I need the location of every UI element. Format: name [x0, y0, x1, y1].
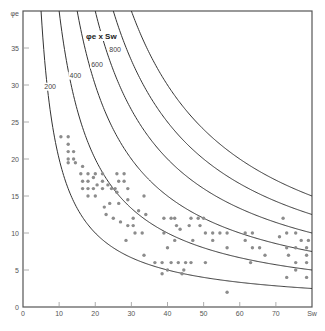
y-tick-label: 0	[15, 304, 19, 311]
curve-label-800: 800	[109, 46, 121, 53]
data-point	[124, 239, 127, 242]
data-point	[119, 220, 122, 223]
data-point	[281, 217, 284, 220]
data-point	[117, 202, 120, 205]
data-point	[122, 172, 125, 175]
y-tick-label: 20	[11, 156, 19, 163]
data-point	[285, 276, 288, 279]
data-point	[294, 231, 297, 234]
x-tick-label: 50	[200, 310, 208, 317]
data-point	[101, 187, 104, 190]
data-point	[126, 224, 129, 227]
data-point	[173, 217, 176, 220]
data-point	[117, 180, 120, 183]
data-point	[94, 172, 97, 175]
data-point	[204, 231, 207, 234]
curve-label-600: 600	[91, 61, 103, 68]
data-point	[189, 261, 192, 264]
data-point	[177, 261, 180, 264]
chart-labels: φeSwφe x Sw	[11, 10, 318, 317]
data-point	[249, 261, 252, 264]
y-tick-label: 10	[11, 230, 19, 237]
data-point	[294, 268, 297, 271]
data-point	[160, 261, 163, 264]
data-point	[101, 172, 104, 175]
data-point	[294, 261, 297, 264]
data-point	[244, 231, 247, 234]
y-tick-label: 25	[11, 119, 19, 126]
data-point	[133, 231, 136, 234]
data-point	[141, 231, 144, 234]
data-point	[204, 261, 207, 264]
data-points	[59, 135, 310, 294]
data-point	[211, 231, 214, 234]
data-point	[86, 194, 89, 197]
x-tick-label: 30	[127, 310, 135, 317]
data-point	[72, 150, 75, 153]
data-point	[211, 239, 214, 242]
data-point	[142, 194, 145, 197]
data-point	[169, 217, 172, 220]
data-point	[86, 187, 89, 190]
data-point	[67, 161, 70, 164]
data-point	[285, 231, 288, 234]
data-point	[162, 231, 165, 234]
curve-400	[59, 11, 312, 270]
x-tick-label: 40	[164, 310, 172, 317]
x-tick-label: 70	[272, 310, 280, 317]
data-point	[115, 191, 118, 194]
data-point	[110, 187, 113, 190]
data-point	[258, 246, 261, 249]
data-point	[142, 254, 145, 257]
x-tick-label: 0	[21, 310, 25, 317]
x-axis-label: Sw	[307, 310, 318, 317]
data-point	[189, 217, 192, 220]
data-point	[251, 231, 254, 234]
data-point	[122, 180, 125, 183]
data-point	[81, 165, 84, 168]
data-point	[104, 213, 107, 216]
data-point	[59, 135, 62, 138]
data-point	[173, 239, 176, 242]
curve-200	[41, 11, 312, 289]
data-point	[294, 246, 297, 249]
data-point	[225, 231, 228, 234]
data-point	[287, 254, 290, 257]
y-tick-label: 35	[11, 45, 19, 52]
data-point	[81, 180, 84, 183]
data-point	[86, 180, 89, 183]
y-axis-label: φe	[11, 10, 20, 18]
curve-family-label: φe x Sw	[86, 32, 117, 41]
data-point	[115, 172, 118, 175]
scatter-chart: 200400600800 010203040506070051015202530…	[0, 0, 325, 331]
data-point	[67, 157, 70, 160]
data-point	[86, 172, 89, 175]
curve-label-400: 400	[70, 72, 82, 79]
data-point	[198, 224, 201, 227]
data-point	[79, 172, 82, 175]
data-point	[81, 187, 84, 190]
data-point	[126, 187, 129, 190]
data-point	[188, 224, 191, 227]
data-point	[72, 157, 75, 160]
data-point	[225, 246, 228, 249]
data-point	[169, 261, 172, 264]
data-point	[184, 261, 187, 264]
data-point	[244, 239, 247, 242]
data-point	[126, 198, 129, 201]
data-point	[175, 224, 178, 227]
curve-1200	[131, 11, 312, 196]
curve-1000	[113, 11, 312, 215]
x-tick-label: 60	[236, 310, 244, 317]
data-point	[180, 272, 183, 275]
data-point	[305, 246, 308, 249]
y-tick-label: 30	[11, 82, 19, 89]
y-tick-label: 5	[15, 267, 19, 274]
data-point	[67, 143, 70, 146]
data-point	[191, 239, 194, 242]
iso-curves: 200400600800	[41, 11, 312, 289]
data-point	[162, 217, 165, 220]
data-point	[251, 246, 254, 249]
data-point	[132, 217, 135, 220]
data-point	[103, 205, 106, 208]
